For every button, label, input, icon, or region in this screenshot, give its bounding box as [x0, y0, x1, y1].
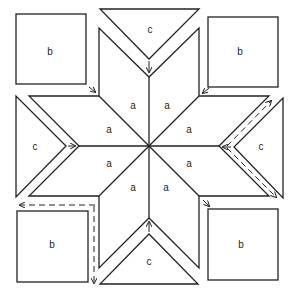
- arrow-top-right-corner: [203, 88, 209, 93]
- label-triangle-bottom: c: [147, 257, 152, 267]
- diagram-lines: [0, 0, 298, 298]
- dashed-seam-right-lower: [227, 148, 276, 197]
- label-diamond-2: a: [164, 101, 170, 111]
- label-triangle-right: c: [259, 142, 264, 152]
- dashed-seam-right-upper: [227, 101, 271, 146]
- arrow-top-left-corner: [89, 87, 95, 92]
- label-triangle-left: c: [33, 142, 38, 152]
- label-diamond-1: a: [130, 101, 136, 111]
- label-square-top-left: b: [47, 47, 53, 57]
- label-diamond-6: a: [130, 183, 136, 193]
- label-square-top-right: b: [237, 47, 243, 57]
- arrow-bottom-right-corner: [203, 200, 209, 206]
- quilt-diagram: b b b b c c c c a a a a a a a a: [0, 0, 298, 298]
- label-triangle-top: c: [148, 25, 153, 35]
- label-diamond-3: a: [186, 125, 192, 135]
- label-square-bottom-right: b: [238, 240, 244, 250]
- label-diamond-5: a: [163, 183, 169, 193]
- label-diamond-7: a: [106, 159, 112, 169]
- label-diamond-8: a: [106, 125, 112, 135]
- label-diamond-4: a: [186, 159, 192, 169]
- triangle-left: [16, 96, 66, 197]
- label-square-bottom-left: b: [49, 240, 55, 250]
